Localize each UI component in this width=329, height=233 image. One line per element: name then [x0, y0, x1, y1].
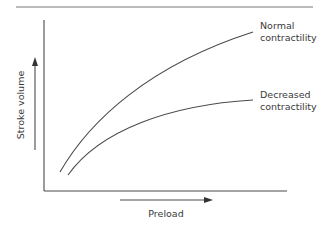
y-axis-arrow: [32, 57, 38, 150]
label-decreased-line2: contractility: [260, 101, 317, 112]
label-decreased-line1: Decreased: [260, 89, 311, 100]
label-normal-line1: Normal: [260, 20, 294, 31]
diagram-canvas: Stroke volume Preload Normal contractili…: [0, 0, 329, 233]
y-axis-label: Stroke volume: [15, 71, 26, 140]
x-axis-arrow: [120, 197, 213, 203]
x-axis-label: Preload: [148, 208, 183, 219]
curve-decreased-contractility: [68, 100, 253, 175]
curve-normal-contractility: [60, 32, 253, 172]
label-normal-line2: contractility: [260, 32, 317, 43]
